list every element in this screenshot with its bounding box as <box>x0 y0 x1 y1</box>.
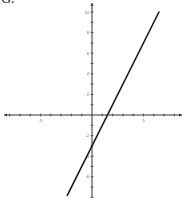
y-tick-label: 4 <box>87 71 90 76</box>
linear-function-line <box>67 12 159 195</box>
y-tick-label: -2 <box>85 133 89 138</box>
coordinate-plane: -55108642-2-4-6 <box>0 0 186 198</box>
y-tick-label: 8 <box>87 30 90 35</box>
y-tick-label: 10 <box>85 10 90 15</box>
plotted-line <box>67 12 159 195</box>
x-tick-label: 5 <box>142 118 145 123</box>
x-axis-arrow-left-icon <box>4 114 7 117</box>
x-axis-arrow-right-icon <box>179 114 182 117</box>
x-tick-label: -5 <box>39 118 43 123</box>
y-tick-label: -6 <box>85 174 89 179</box>
y-tick-label: 2 <box>87 92 90 97</box>
y-axis-arrow-up-icon <box>91 3 94 6</box>
y-tick-label: 6 <box>87 51 90 56</box>
